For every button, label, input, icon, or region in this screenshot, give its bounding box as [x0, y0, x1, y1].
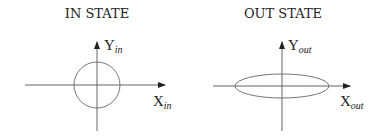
x-out-label: Xout — [340, 93, 364, 111]
diagram: IN STATE Yin Xin OUT STATE Yout Xout — [0, 0, 384, 137]
out-state-panel: OUT STATE Yout Xout — [213, 6, 364, 131]
x-in-label: Xin — [153, 93, 172, 111]
in-state-panel: IN STATE Yin Xin — [25, 6, 172, 131]
out-state-title: OUT STATE — [244, 6, 322, 21]
y-out-label: Yout — [288, 37, 312, 55]
y-in-label: Yin — [104, 37, 123, 55]
in-state-title: IN STATE — [65, 6, 129, 21]
